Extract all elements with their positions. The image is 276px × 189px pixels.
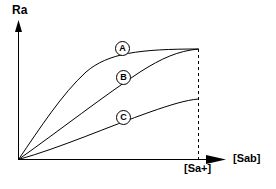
y-axis-label: Ra [12, 4, 27, 16]
curve-c [19, 99, 199, 160]
curve-label-c: C [116, 110, 131, 125]
curve-b [19, 49, 199, 160]
curve-a [19, 49, 199, 160]
y-axis-arrowhead [15, 20, 22, 32]
curve-label-b: B [116, 70, 131, 85]
figure-root: Ra [Sab] [Sa+] A B C [0, 0, 276, 189]
curve-label-a: A [115, 41, 130, 56]
x-axis-tick-label-sa-plus: [Sa+] [184, 163, 211, 174]
x-axis-label: [Sab] [233, 153, 261, 164]
